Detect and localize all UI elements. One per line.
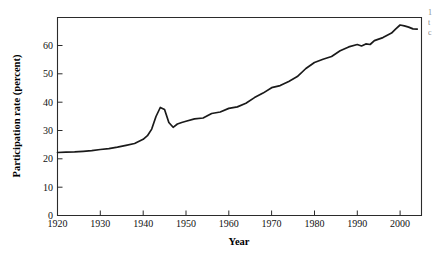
x-tick-label: 2000: [390, 218, 410, 229]
x-tick-label: 1940: [133, 218, 153, 229]
x-tick-label: 1950: [176, 218, 196, 229]
edge-caption-line: t: [428, 18, 442, 28]
plot-frame: [58, 18, 422, 216]
chart-figure: 0 10 20 30 40 50 60 1920 1930 1940 1950: [0, 0, 442, 259]
x-axis-title: Year: [229, 236, 250, 247]
cropped-edge-caption: 1 t c: [428, 8, 442, 38]
y-tick-label: 30: [43, 125, 53, 136]
y-axis-title: Participation rate (percent): [11, 54, 23, 177]
x-tick-labels: 1920 1930 1940 1950 1960 1970 1980 1990 …: [48, 218, 411, 229]
y-tick-label: 10: [43, 182, 53, 193]
y-tick-label: 60: [43, 40, 53, 51]
x-tick-label: 1920: [48, 218, 68, 229]
y-tick-labels: 0 10 20 30 40 50 60: [43, 40, 53, 221]
y-tick-marks: [58, 46, 63, 216]
y-tick-label: 50: [43, 68, 53, 79]
participation-rate-line: [58, 25, 418, 153]
edge-caption-line: 1: [428, 8, 442, 18]
x-tick-label: 1960: [219, 218, 239, 229]
y-tick-label: 20: [43, 153, 53, 164]
x-tick-label: 1990: [347, 218, 367, 229]
line-chart: 0 10 20 30 40 50 60 1920 1930 1940 1950: [0, 0, 442, 259]
x-tick-label: 1980: [305, 218, 325, 229]
x-tick-label: 1930: [90, 218, 110, 229]
x-tick-label: 1970: [262, 218, 282, 229]
x-tick-marks: [58, 211, 401, 216]
edge-caption-line: c: [428, 28, 442, 38]
y-tick-label: 40: [43, 97, 53, 108]
